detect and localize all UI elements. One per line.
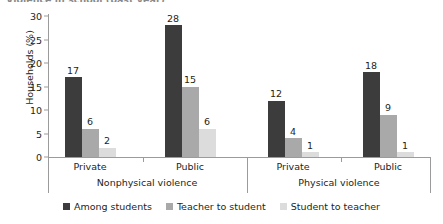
bar-value-label: 1	[307, 141, 313, 151]
bar-value-label: 1	[402, 141, 408, 151]
category-tick	[341, 157, 342, 162]
group-separator	[48, 157, 49, 193]
y-axis-tick-mark	[44, 39, 48, 40]
bar: 9	[380, 115, 397, 157]
clipped-title: Violence in school (past year)	[6, 0, 266, 2]
bar-value-label: 18	[365, 61, 377, 71]
group-separator	[430, 157, 431, 193]
y-axis-tick-mark	[44, 110, 48, 111]
legend-item: Student to teacher	[280, 201, 380, 212]
legend-swatch-icon	[166, 203, 173, 210]
bar-value-label: 9	[385, 103, 391, 113]
legend-label: Teacher to student	[177, 201, 266, 212]
legend-item: Among students	[63, 201, 152, 212]
legend-label: Student to teacher	[291, 201, 380, 212]
group-separator	[247, 157, 248, 193]
legend-item: Teacher to student	[166, 201, 266, 212]
bar-value-label: 15	[184, 75, 196, 85]
bar: 1	[302, 152, 319, 157]
x-axis-group-label: Nonphysical violence	[97, 177, 198, 188]
category-tick	[143, 157, 144, 162]
chart-legend: Among studentsTeacher to studentStudent …	[0, 201, 443, 212]
legend-label: Among students	[74, 201, 152, 212]
y-axis-tick-mark	[44, 63, 48, 64]
legend-swatch-icon	[63, 203, 70, 210]
bar: 28	[165, 25, 182, 157]
x-axis-line	[48, 157, 431, 158]
bar: 6	[82, 129, 99, 157]
bar-value-label: 12	[270, 89, 282, 99]
bar: 17	[65, 77, 82, 157]
bar: 15	[182, 87, 199, 158]
y-axis-tick-mark	[44, 86, 48, 87]
bar: 6	[199, 129, 216, 157]
x-axis-category-label: Private	[276, 161, 309, 172]
bar: 4	[285, 138, 302, 157]
bar-value-label: 4	[290, 127, 296, 137]
x-axis-group-label: Physical violence	[298, 177, 379, 188]
y-axis-tick-mark	[44, 133, 48, 134]
x-axis-category-label: Public	[374, 161, 402, 172]
bar-chart: Violence in school (past year) Household…	[0, 0, 443, 224]
bar-value-label: 6	[204, 117, 210, 127]
x-axis-category-label: Private	[73, 161, 106, 172]
plot-area: 05101520253017622815612411891	[48, 16, 430, 157]
bar-value-label: 2	[104, 136, 110, 146]
bar: 1	[397, 152, 414, 157]
bar: 2	[99, 148, 116, 157]
bar-value-label: 17	[67, 66, 79, 76]
bar: 12	[268, 101, 285, 157]
bar-value-label: 28	[167, 14, 179, 24]
legend-swatch-icon	[280, 203, 287, 210]
bar-value-label: 6	[87, 117, 93, 127]
y-axis-tick-mark	[44, 16, 48, 17]
bar: 18	[363, 72, 380, 157]
x-axis-category-label: Public	[176, 161, 204, 172]
